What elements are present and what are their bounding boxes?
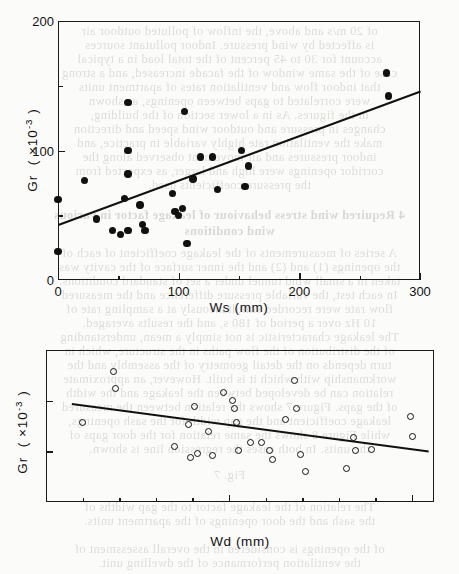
data-point [214, 186, 221, 193]
data-point [205, 428, 212, 435]
x-axis-tick-label: 0 [54, 284, 61, 299]
data-point [112, 385, 119, 392]
x-axis-tick-label: 200 [288, 284, 310, 299]
data-point [238, 147, 245, 154]
x-axis-title-bottom: Wd (mm) [210, 534, 270, 549]
data-point [179, 205, 186, 212]
x-axis-tick [239, 276, 240, 281]
data-point [79, 419, 86, 426]
data-point [241, 183, 248, 190]
data-point [291, 377, 298, 384]
data-point [385, 92, 392, 99]
data-point [124, 227, 131, 234]
y-axis-title-bottom: Gr ( ×10-3 ) [12, 390, 30, 474]
data-point [235, 447, 242, 454]
x-axis-tick [229, 495, 230, 502]
x-axis-tick [192, 498, 193, 503]
plot-area-top [58, 21, 420, 280]
data-point [269, 456, 276, 463]
data-point [282, 416, 289, 423]
x-axis-tick [179, 273, 180, 280]
x-axis-tick [266, 498, 267, 503]
data-point [409, 433, 416, 440]
bleed-text-line: 10 Hz over a period of 180 s, and the re… [0, 316, 459, 331]
data-point [191, 403, 198, 410]
data-point [343, 465, 350, 472]
data-point [136, 201, 143, 208]
data-point [175, 212, 182, 219]
x-axis-title-top: Ws (mm) [210, 300, 269, 315]
data-point [187, 454, 194, 461]
data-point [231, 405, 238, 412]
data-point [220, 389, 227, 396]
x-axis-tick [412, 495, 413, 502]
data-point [297, 451, 304, 458]
data-point [183, 240, 190, 247]
data-point [110, 368, 117, 375]
x-axis-tick [360, 276, 361, 281]
x-axis-tick [302, 498, 303, 503]
y-axis-tick [46, 401, 53, 402]
figure-gr-vs-ws: 01002003000100200 Ws (mm) Gr ( ×10-3 ) [0, 0, 459, 315]
y-axis-tick-label: 200 [16, 14, 54, 29]
data-point [383, 69, 390, 76]
y-axis-tick [58, 151, 65, 152]
regression-line [58, 91, 421, 226]
data-point [245, 162, 252, 169]
data-point [185, 421, 192, 428]
data-point [124, 147, 131, 154]
data-point [54, 248, 61, 255]
data-point [302, 468, 309, 475]
x-axis-tick [156, 498, 157, 503]
x-axis-tick-label: 300 [409, 284, 431, 299]
x-axis-tick [299, 273, 300, 280]
plot-area-bottom [46, 350, 434, 502]
data-point [171, 443, 178, 450]
data-point [266, 447, 273, 454]
x-axis-tick [83, 498, 84, 503]
x-axis-tick [118, 276, 119, 281]
data-point [81, 177, 88, 184]
data-point [258, 439, 265, 446]
data-point [352, 447, 359, 454]
data-point [229, 397, 236, 404]
data-point [209, 153, 216, 160]
data-point [293, 405, 300, 412]
y-axis-tick [58, 86, 63, 87]
x-axis-tick [339, 498, 340, 503]
data-point [93, 215, 100, 222]
data-point [181, 108, 188, 115]
data-point [368, 446, 375, 453]
data-point [194, 450, 201, 457]
data-point [169, 190, 176, 197]
x-axis-tick-label: 100 [168, 284, 190, 299]
x-axis-tick [420, 273, 421, 280]
y-axis-title-top: Gr ( ×10-3 ) [22, 108, 40, 192]
x-axis-tick [119, 498, 120, 503]
y-axis-tick [58, 21, 65, 22]
figure-gr-vs-wd: 50010001500050100150 Wd (mm) Gr ( ×10-3 … [0, 340, 459, 574]
data-point [109, 227, 116, 234]
x-axis-tick [375, 498, 376, 503]
data-point [209, 452, 216, 459]
data-point [124, 170, 131, 177]
y-axis-tick [46, 350, 53, 351]
y-axis-tick [46, 451, 53, 452]
data-point [407, 413, 414, 420]
data-point [117, 231, 124, 238]
data-point [54, 196, 61, 203]
y-axis-tick [58, 215, 63, 216]
data-point [197, 153, 204, 160]
data-point [124, 99, 131, 106]
data-point [247, 439, 254, 446]
data-point [141, 227, 148, 234]
y-axis-tick-label: 0 [16, 273, 54, 288]
